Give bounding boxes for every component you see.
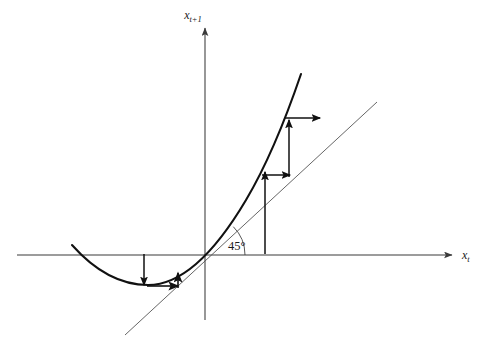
angle-annotation-group: 45° xyxy=(228,227,246,255)
angle-label: 45° xyxy=(228,239,246,253)
map-function-curve xyxy=(72,74,301,285)
x-axis-label-subscript: t xyxy=(467,254,470,264)
forty-five-degree-line xyxy=(125,102,377,335)
x-axis-label: xt xyxy=(461,248,470,264)
axes-group xyxy=(17,28,452,320)
y-axis-label: xt+1 xyxy=(183,8,202,24)
cobweb-arrows-right xyxy=(262,118,320,254)
y-axis-label-subscript: t+1 xyxy=(189,14,201,24)
cobweb-diagram: xt+1 xt 45° xyxy=(0,0,483,345)
axis-labels-group: xt+1 xt xyxy=(183,8,470,264)
